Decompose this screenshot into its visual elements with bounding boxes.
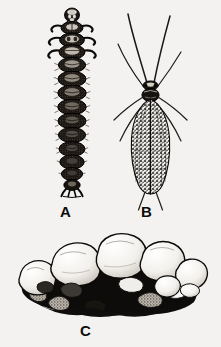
larva-prothorax	[51, 22, 92, 34]
abdomen-segment	[58, 71, 86, 87]
abdomen-segment	[59, 142, 85, 157]
case-pebble	[96, 234, 146, 279]
larva-body-group	[48, 8, 95, 198]
adult-left-wing	[131, 99, 150, 194]
abdomen-segment	[58, 113, 86, 129]
case-pebble	[51, 243, 101, 286]
larval-case-group	[19, 234, 207, 317]
abdomen-segment	[58, 99, 86, 115]
larva-anal-prolegs	[61, 180, 82, 198]
figure-label-b: B	[141, 204, 152, 219]
case-pebble	[119, 277, 144, 292]
adult-forelegs	[118, 44, 181, 86]
abdomen-segment	[61, 168, 82, 181]
larva-abdomen	[58, 57, 86, 180]
abdomen-segment	[60, 155, 84, 169]
adult-wings	[131, 99, 169, 194]
case-pebble	[155, 276, 181, 297]
figure-label-a: A	[60, 204, 71, 219]
adult-right-wing	[151, 99, 170, 194]
abdomen-segment	[58, 57, 85, 72]
case-pebble	[180, 284, 199, 298]
adult-body-group	[114, 14, 187, 210]
figure-label-c: C	[80, 323, 91, 338]
figure-plate: A B C	[0, 0, 221, 347]
figure-a-larva-illustration	[0, 0, 221, 347]
abdomen-segment	[58, 127, 85, 142]
abdomen-segment	[58, 85, 86, 101]
case-pebble	[37, 282, 54, 294]
